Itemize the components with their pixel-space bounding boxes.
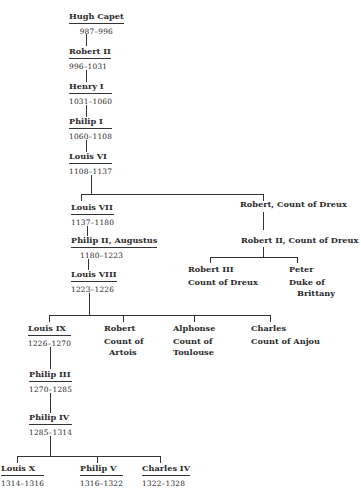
node-henry-i: Henry I 1031–1060 bbox=[69, 81, 112, 107]
name: Charles IV bbox=[142, 463, 190, 476]
connector bbox=[97, 456, 98, 463]
connector bbox=[91, 175, 92, 194]
connector bbox=[86, 34, 87, 46]
name: Robert II bbox=[69, 46, 111, 59]
node-robert-ii: Robert II 996–1031 bbox=[69, 46, 111, 72]
connector bbox=[270, 315, 271, 322]
name: Louis VII bbox=[71, 202, 114, 215]
name: Philip III bbox=[29, 369, 72, 382]
name: Alphonse bbox=[173, 323, 215, 334]
title: Count of Dreux bbox=[188, 277, 258, 288]
node-louis-ix: Louis IX 1226–1270 bbox=[28, 323, 71, 349]
title: Artois bbox=[104, 347, 144, 358]
name: Louis VI bbox=[69, 151, 112, 164]
node-robert-ii-dreux: Robert II, Count of Dreux bbox=[241, 235, 358, 246]
name: Peter bbox=[289, 264, 335, 275]
reign-dates: 996–1031 bbox=[69, 61, 111, 72]
connector bbox=[50, 436, 51, 456]
title: Toulouse bbox=[173, 347, 215, 358]
reign-dates: 1031–1060 bbox=[69, 96, 112, 107]
branch-line bbox=[210, 257, 298, 258]
title: Brittany bbox=[289, 288, 335, 299]
name: Philip V bbox=[80, 463, 123, 476]
connector bbox=[50, 347, 51, 369]
connector bbox=[194, 315, 195, 322]
reign-dates: 1223–1226 bbox=[71, 284, 117, 295]
connector bbox=[160, 456, 161, 463]
name: Philip IV bbox=[29, 412, 72, 425]
node-robert-iii-dreux: Robert III Count of Dreux bbox=[188, 264, 258, 288]
name: Charles bbox=[251, 323, 320, 334]
connector bbox=[210, 257, 211, 263]
name: Robert bbox=[104, 323, 144, 334]
name: Robert II, Count of Dreux bbox=[241, 235, 358, 246]
name: Louis X bbox=[1, 463, 44, 476]
node-charles-iv: Charles IV 1322–1328 bbox=[142, 463, 190, 489]
node-hugh-capet: Hugh Capet 987–996 bbox=[69, 11, 124, 37]
title: Duke of bbox=[289, 277, 335, 288]
node-philip-ii: Philip II, Augustus 1180–1223 bbox=[71, 235, 157, 261]
name: Hugh Capet bbox=[69, 11, 124, 24]
name: Philip II, Augustus bbox=[71, 235, 157, 248]
name: Henry I bbox=[69, 81, 112, 94]
connector bbox=[297, 257, 298, 263]
connector bbox=[89, 293, 90, 315]
reign-dates: 1322–1328 bbox=[142, 478, 190, 489]
node-louis-x: Louis X 1314–1316 bbox=[1, 463, 44, 489]
connector bbox=[81, 194, 82, 201]
connector bbox=[123, 315, 124, 322]
connector bbox=[263, 212, 264, 230]
name: Robert, Count of Dreux bbox=[240, 199, 347, 210]
node-philip-i: Philip I 1060–1108 bbox=[69, 116, 112, 142]
name: Robert III bbox=[188, 264, 258, 275]
name: Louis VIII bbox=[71, 269, 117, 282]
title: Count of Anjou bbox=[251, 336, 320, 347]
connector bbox=[50, 393, 51, 413]
node-philip-iii: Philip III 1270–1285 bbox=[29, 369, 72, 395]
connector bbox=[263, 247, 264, 257]
reign-dates: 987–996 bbox=[69, 26, 124, 37]
branch-line bbox=[17, 456, 161, 457]
connector bbox=[17, 456, 18, 463]
node-robert-dreux: Robert, Count of Dreux bbox=[240, 199, 347, 210]
connector bbox=[49, 315, 50, 322]
title: Count of bbox=[104, 336, 144, 347]
reign-dates: 1060–1108 bbox=[69, 131, 112, 142]
node-charles-anjou: Charles Count of Anjou bbox=[251, 323, 320, 347]
node-louis-vii: Louis VII 1137–1180 bbox=[71, 202, 114, 228]
name: Louis IX bbox=[28, 323, 71, 336]
node-philip-iv: Philip IV 1285–1314 bbox=[29, 412, 72, 438]
node-robert-artois: Robert Count of Artois bbox=[104, 323, 144, 358]
title: Count of bbox=[173, 336, 215, 347]
branch-line bbox=[81, 194, 264, 195]
node-peter: Peter Duke of Brittany bbox=[289, 264, 335, 299]
node-alphonse: Alphonse Count of Toulouse bbox=[173, 323, 215, 358]
node-louis-vi: Louis VI 1108–1137 bbox=[69, 151, 112, 177]
branch-line bbox=[49, 315, 271, 316]
reign-dates: 1137–1180 bbox=[71, 217, 114, 228]
reign-dates: 1316–1322 bbox=[80, 478, 123, 489]
name: Philip I bbox=[69, 116, 112, 129]
node-louis-viii: Louis VIII 1223–1226 bbox=[71, 269, 117, 295]
node-philip-v: Philip V 1316–1322 bbox=[80, 463, 123, 489]
reign-dates: 1180–1223 bbox=[71, 250, 157, 261]
reign-dates: 1314–1316 bbox=[1, 478, 44, 489]
